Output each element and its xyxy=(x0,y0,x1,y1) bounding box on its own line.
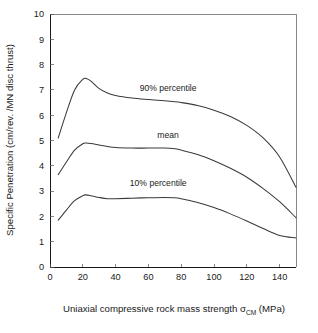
x-tick-label: 100 xyxy=(206,272,221,282)
y-tick-label: 5 xyxy=(39,136,44,146)
x-axis-tick-labels: 020406080100120140 xyxy=(47,272,287,282)
x-axis-title: Uniaxial compressive rock mass strength … xyxy=(63,303,285,316)
y-tick-label: 4 xyxy=(39,161,44,171)
y-axis-tick-labels: 012345678910 xyxy=(34,9,44,272)
y-tick-label: 9 xyxy=(39,35,44,45)
curve-label: 90% percentile xyxy=(140,83,197,93)
axis-lines xyxy=(50,14,296,267)
y-tick-label: 8 xyxy=(39,60,44,70)
curve-label: 10% percentile xyxy=(130,178,187,188)
y-tick-label: 6 xyxy=(39,111,44,121)
plot-border xyxy=(50,14,296,267)
x-tick-label: 80 xyxy=(176,272,186,282)
y-tick-label: 3 xyxy=(39,186,44,196)
chart-figure: 020406080100120140 012345678910 90% perc… xyxy=(0,0,318,333)
x-tick-label: 60 xyxy=(143,272,153,282)
y-tick-label: 1 xyxy=(39,237,44,247)
x-axis-ticks xyxy=(50,264,280,268)
y-axis-ticks xyxy=(50,14,54,267)
x-tick-label: 140 xyxy=(272,272,287,282)
data-curves xyxy=(58,78,296,238)
curve-label: mean xyxy=(157,130,179,140)
chart-canvas: 020406080100120140 012345678910 90% perc… xyxy=(0,0,318,333)
plot-frame xyxy=(50,14,296,267)
y-tick-label: 10 xyxy=(34,9,44,19)
x-tick-label: 40 xyxy=(110,272,120,282)
x-tick-label: 120 xyxy=(239,272,254,282)
y-tick-label: 0 xyxy=(39,262,44,272)
x-tick-label: 20 xyxy=(78,272,88,282)
y-axis-title: Specific Penetration (cm/rev. /MN disc t… xyxy=(4,44,15,236)
y-tick-label: 2 xyxy=(39,212,44,222)
curve-10-percentile xyxy=(58,195,296,238)
x-tick-label: 0 xyxy=(47,272,52,282)
y-tick-label: 7 xyxy=(39,85,44,95)
